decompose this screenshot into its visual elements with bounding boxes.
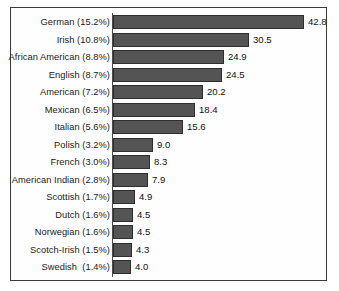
bar bbox=[113, 208, 133, 222]
bar bbox=[113, 50, 224, 64]
category-label: Scottish (1.7%) bbox=[46, 190, 110, 204]
bar-row: Dutch (1.6%)4.5 bbox=[11, 208, 326, 222]
bar bbox=[113, 138, 153, 152]
category-label: Norwegian (1.6%) bbox=[35, 225, 110, 239]
category-label: Mexican (6.5%) bbox=[45, 103, 110, 117]
bar bbox=[113, 225, 133, 239]
chart-frame: German (15.2%)42.8Irish (10.8%)30.5Afric… bbox=[10, 7, 327, 281]
bar-row: Italian (5.6%)15.6 bbox=[11, 120, 326, 134]
category-label: Dutch (1.6%) bbox=[55, 208, 110, 222]
bar-value-label: 24.9 bbox=[228, 50, 247, 64]
category-label: Polish (3.2%) bbox=[54, 138, 110, 152]
bar bbox=[113, 85, 203, 99]
category-label: Irish (10.8%) bbox=[57, 33, 110, 47]
category-label: Swedish (1.4%) bbox=[42, 260, 110, 274]
bar-row: Scottish (1.7%)4.9 bbox=[11, 190, 326, 204]
bar-row: American Indian (2.8%)7.9 bbox=[11, 173, 326, 187]
bar-value-label: 4.9 bbox=[139, 190, 152, 204]
bar-row: Polish (3.2%)9.0 bbox=[11, 138, 326, 152]
bar-value-label: 4.0 bbox=[135, 260, 148, 274]
category-label: African American (8.8%) bbox=[9, 50, 110, 64]
bar-row: African American (8.8%)24.9 bbox=[11, 50, 326, 64]
bar-value-label: 30.5 bbox=[253, 33, 272, 47]
bar-value-label: 18.4 bbox=[199, 103, 218, 117]
bar-value-label: 4.3 bbox=[136, 243, 149, 257]
bar bbox=[113, 15, 304, 29]
category-label: French (3.0%) bbox=[50, 155, 110, 169]
bar-value-label: 4.5 bbox=[137, 225, 150, 239]
bar bbox=[113, 33, 249, 47]
bar-row: Scotch-Irish (1.5%)4.3 bbox=[11, 243, 326, 257]
bar-value-label: 15.6 bbox=[187, 120, 206, 134]
bar-value-label: 24.5 bbox=[226, 68, 245, 82]
bar-row: Swedish (1.4%)4.0 bbox=[11, 260, 326, 274]
bar-row: Mexican (6.5%)18.4 bbox=[11, 103, 326, 117]
bar-row: English (8.7%)24.5 bbox=[11, 68, 326, 82]
bar-row: French (3.0%)8.3 bbox=[11, 155, 326, 169]
bar bbox=[113, 103, 195, 117]
category-label: Scotch-Irish (1.5%) bbox=[30, 243, 110, 257]
bar bbox=[113, 120, 183, 134]
bar-value-label: 20.2 bbox=[207, 85, 226, 99]
bar bbox=[113, 155, 150, 169]
bar-row: American (7.2%)20.2 bbox=[11, 85, 326, 99]
bar-chart-plot-area: German (15.2%)42.8Irish (10.8%)30.5Afric… bbox=[11, 8, 326, 280]
category-label: American (7.2%) bbox=[40, 85, 110, 99]
bar bbox=[113, 243, 132, 257]
bar-value-label: 8.3 bbox=[154, 155, 167, 169]
bar-value-label: 42.8 bbox=[308, 15, 327, 29]
category-label: English (8.7%) bbox=[49, 68, 110, 82]
bar-value-label: 4.5 bbox=[137, 208, 150, 222]
bar-value-label: 9.0 bbox=[157, 138, 170, 152]
category-label: American Indian (2.8%) bbox=[12, 173, 110, 187]
bar bbox=[113, 68, 222, 82]
bar bbox=[113, 260, 131, 274]
category-label: Italian (5.6%) bbox=[55, 120, 110, 134]
bar-row: Norwegian (1.6%)4.5 bbox=[11, 225, 326, 239]
bar bbox=[113, 173, 148, 187]
bar-row: Irish (10.8%)30.5 bbox=[11, 33, 326, 47]
bar-value-label: 7.9 bbox=[152, 173, 165, 187]
bar bbox=[113, 190, 135, 204]
category-label: German (15.2%) bbox=[41, 15, 110, 29]
bar-row: German (15.2%)42.8 bbox=[11, 15, 326, 29]
